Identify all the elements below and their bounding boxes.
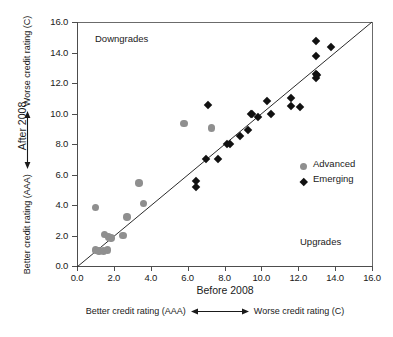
data-point-emerging bbox=[236, 131, 244, 139]
legend-label-advanced: Advanced bbox=[313, 158, 355, 169]
x-axis-direction-caption: Better credit rating (AAA) Worse credit … bbox=[50, 306, 380, 316]
data-point-emerging bbox=[312, 52, 320, 60]
y-tick-label: 0.0 bbox=[38, 260, 68, 271]
legend-label-emerging: Emerging bbox=[313, 173, 354, 184]
data-points-layer bbox=[77, 22, 372, 266]
data-point-emerging bbox=[204, 101, 212, 109]
x-tick-label: 10.0 bbox=[244, 272, 278, 283]
x-tick-label: 8.0 bbox=[208, 272, 242, 283]
x-tick-label: 4.0 bbox=[134, 272, 168, 283]
y-tick-label: 4.0 bbox=[38, 199, 68, 210]
annotation-upgrades: Upgrades bbox=[300, 236, 341, 247]
y-axis-caption-bottom: Better credit rating (AAA) bbox=[22, 174, 32, 274]
data-point-advanced bbox=[107, 234, 115, 242]
data-point-advanced bbox=[208, 124, 216, 132]
y-tick-label: 10.0 bbox=[38, 108, 68, 119]
data-point-emerging bbox=[244, 126, 252, 134]
y-tick-label: 2.0 bbox=[38, 230, 68, 241]
y-tick-label: 8.0 bbox=[38, 138, 68, 149]
double-arrow-horizontal-icon bbox=[191, 307, 249, 316]
x-tick-mark bbox=[372, 266, 373, 271]
data-point-emerging bbox=[327, 43, 335, 51]
x-tick-label: 16.0 bbox=[355, 272, 389, 283]
x-tick-label: 12.0 bbox=[281, 272, 315, 283]
data-point-emerging bbox=[263, 97, 271, 105]
legend-circle-marker-icon bbox=[300, 163, 307, 170]
data-point-emerging bbox=[192, 183, 200, 191]
annotation-downgrades: Downgrades bbox=[95, 33, 148, 44]
y-axis-caption-top: Worse credit rating (C) bbox=[22, 16, 32, 106]
data-point-emerging bbox=[312, 37, 320, 45]
y-tick-label: 14.0 bbox=[38, 47, 68, 58]
y-tick-label: 6.0 bbox=[38, 169, 68, 180]
x-tick-label: 0.0 bbox=[60, 272, 94, 283]
data-point-advanced bbox=[123, 213, 131, 221]
data-point-advanced bbox=[92, 204, 100, 212]
data-point-advanced bbox=[180, 120, 188, 128]
y-axis-direction-caption: Better credit rating (AAA) Worse credit … bbox=[22, 0, 32, 290]
data-point-emerging bbox=[287, 102, 295, 110]
data-point-advanced bbox=[119, 232, 127, 240]
y-tick-label: 12.0 bbox=[38, 77, 68, 88]
scatter-chart-figure: 0.02.04.06.08.010.012.014.016.0 0.02.04.… bbox=[0, 0, 393, 337]
y-tick-label: 16.0 bbox=[38, 16, 68, 27]
x-axis-title: Before 2008 bbox=[77, 284, 373, 296]
data-point-emerging bbox=[202, 155, 210, 163]
data-point-advanced bbox=[135, 179, 143, 187]
data-point-advanced bbox=[140, 200, 148, 208]
data-point-advanced bbox=[104, 246, 112, 254]
double-arrow-vertical-icon bbox=[23, 111, 32, 169]
plot-frame-right bbox=[372, 22, 373, 267]
data-point-emerging bbox=[296, 102, 304, 110]
x-tick-label: 6.0 bbox=[171, 272, 205, 283]
data-point-emerging bbox=[266, 109, 274, 117]
x-tick-label: 14.0 bbox=[318, 272, 352, 283]
x-axis-caption-left: Better credit rating (AAA) bbox=[86, 306, 186, 316]
x-tick-label: 2.0 bbox=[97, 272, 131, 283]
data-point-emerging bbox=[214, 155, 222, 163]
x-axis-caption-right: Worse credit rating (C) bbox=[254, 306, 344, 316]
